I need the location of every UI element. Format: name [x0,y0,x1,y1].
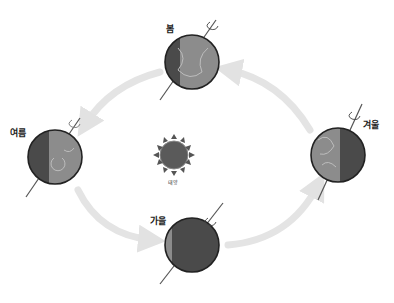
arrow-autumn-to-winter [228,185,318,245]
earth-autumn [160,203,223,284]
label-sun: 태양 [168,178,178,185]
earth-summer [25,118,82,197]
label-spring: 봄 [166,22,174,35]
orbit-diagram [0,0,394,303]
arrow-spring-to-summer [85,72,160,125]
label-winter: 겨울 [363,118,379,131]
arrow-summer-to-autumn [78,190,152,240]
arrow-winter-to-spring [228,70,310,130]
sun-icon [153,134,195,176]
label-summer: 여름 [10,126,26,139]
label-autumn: 가을 [150,214,166,227]
